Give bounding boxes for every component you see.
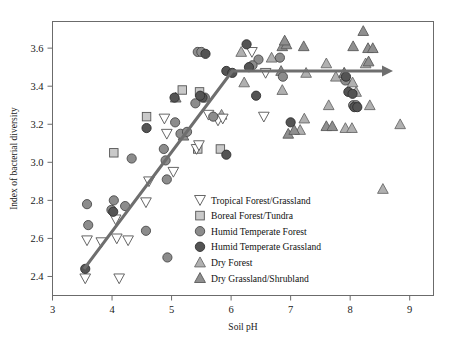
data-point (364, 100, 375, 110)
legend-item[interactable]: Dry Forest (195, 257, 253, 268)
legend: Tropical Forest/GrasslandBoreal Forest/T… (195, 195, 322, 284)
data-point (358, 26, 369, 36)
data-point (341, 72, 350, 81)
x-tick-label: 6 (228, 304, 233, 315)
y-tick-label: 3.2 (30, 119, 43, 130)
data-point (123, 236, 134, 246)
legend-marker (195, 257, 206, 267)
data-point (277, 85, 288, 95)
data-point (321, 58, 332, 68)
data-point (110, 149, 118, 157)
x-tick-label: 5 (169, 304, 174, 315)
data-point (275, 53, 284, 62)
y-tick-label: 3.0 (30, 157, 43, 168)
legend-label: Humid Temperate Grassland (211, 241, 321, 252)
data-point (279, 35, 290, 45)
data-point (171, 118, 180, 127)
scatter-plot-figure: 3456789Soil pH2.42.62.83.03.23.43.6Index… (0, 0, 449, 351)
data-point (222, 150, 231, 159)
data-point (82, 200, 91, 209)
data-point (163, 253, 172, 262)
data-point (196, 91, 205, 100)
chart-canvas: 3456789Soil pH2.42.62.83.03.23.43.6Index… (0, 0, 449, 351)
data-point (323, 100, 334, 110)
y-tick-label: 3.6 (30, 43, 43, 54)
data-point (278, 72, 287, 81)
data-point (178, 86, 186, 94)
y-tick-label: 2.4 (30, 271, 44, 282)
data-point (298, 41, 309, 51)
data-point (239, 77, 250, 87)
x-axis: 3456789Soil pH (50, 296, 412, 332)
legend-label: Dry Forest (211, 257, 253, 268)
y-tick-label: 2.8 (30, 195, 43, 206)
data-point (159, 144, 168, 153)
data-point (142, 112, 150, 120)
y-axis-title: Index of bacterial diversity (9, 107, 19, 210)
data-point (395, 119, 406, 129)
data-point (348, 89, 357, 98)
legend-item[interactable]: Humid Temperate Grassland (195, 241, 321, 252)
data-point (299, 113, 310, 123)
data-point (141, 198, 152, 208)
data-point (161, 129, 172, 139)
legend-label: Dry Grassland/Shrubland (211, 273, 309, 284)
legend-item[interactable]: Boreal Forest/Tundra (196, 210, 294, 221)
legend-marker (195, 273, 206, 283)
legend-marker (195, 242, 204, 251)
data-point (142, 123, 151, 132)
data-point (111, 234, 122, 244)
data-point (141, 226, 150, 235)
x-tick-label: 4 (109, 304, 115, 315)
data-point (170, 93, 179, 102)
data-point (242, 40, 251, 49)
y-tick-label: 3.4 (30, 81, 44, 92)
x-tick-label: 3 (50, 304, 55, 315)
data-point (209, 112, 218, 121)
legend-label: Boreal Forest/Tundra (211, 210, 294, 221)
data-point (251, 91, 260, 100)
legend-marker (195, 227, 204, 236)
legend-item[interactable]: Dry Grassland/Shrubland (195, 273, 309, 284)
data-point (114, 274, 125, 284)
arrow-head (382, 65, 393, 76)
data-point (127, 154, 136, 163)
legend-item[interactable]: Tropical Forest/Grassland (195, 195, 311, 206)
plot-frame (53, 22, 434, 296)
legend-marker (196, 211, 205, 220)
data-point (258, 112, 269, 122)
legend-item[interactable]: Humid Temperate Forest (195, 226, 307, 237)
data-point (378, 184, 389, 194)
data-point (159, 114, 170, 124)
data-point (162, 175, 171, 184)
legend-marker (195, 195, 206, 205)
data-point (84, 220, 93, 229)
y-tick-label: 2.6 (30, 233, 43, 244)
y-axis: 2.42.62.83.03.23.43.6Index of bacterial … (9, 43, 53, 282)
series-humid-temperate-grassland (81, 40, 362, 274)
data-point (348, 41, 359, 51)
data-point (201, 49, 210, 58)
legend-label: Humid Temperate Forest (211, 226, 307, 237)
data-point (109, 207, 118, 216)
data-point (109, 196, 118, 205)
data-point (80, 274, 91, 284)
x-tick-label: 9 (407, 304, 412, 315)
x-axis-title: Soil pH (228, 322, 257, 332)
data-point (82, 236, 93, 246)
data-point (286, 118, 295, 127)
legend-label: Tropical Forest/Grassland (211, 195, 311, 206)
data-point (353, 103, 362, 112)
x-tick-label: 8 (348, 304, 353, 315)
x-tick-label: 7 (288, 304, 293, 315)
